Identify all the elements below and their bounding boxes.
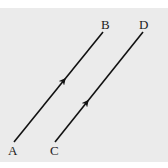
label-c: C [50,144,59,157]
arrow-icon [55,102,87,142]
segment-cd [55,32,143,142]
arrow-icon [14,80,64,142]
label-d: D [139,18,148,31]
label-a: A [8,144,17,157]
label-b: B [101,18,110,31]
segment-ab [14,32,103,142]
